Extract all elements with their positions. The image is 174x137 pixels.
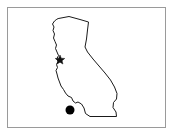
southern-city-dot: [66, 106, 75, 115]
map-canvas: [0, 0, 174, 137]
circle-marker-icon: [66, 106, 75, 115]
map-figure: California state outline map California: [0, 0, 174, 137]
california-outline-path: [53, 17, 118, 117]
